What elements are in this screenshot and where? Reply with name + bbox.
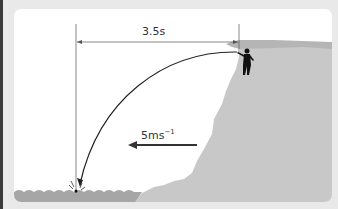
left-border: [0, 0, 3, 209]
diagram-canvas: [14, 9, 332, 202]
diagram-panel: 3.5s 5ms−1: [14, 9, 332, 202]
velocity-label-base: 5ms: [141, 129, 164, 142]
velocity-label: 5ms−1: [141, 128, 175, 142]
velocity-label-exponent: −1: [164, 128, 174, 136]
cliff-top: [226, 40, 332, 49]
time-label: 3.5s: [142, 25, 165, 38]
splash: [69, 181, 85, 190]
water: [14, 190, 142, 202]
